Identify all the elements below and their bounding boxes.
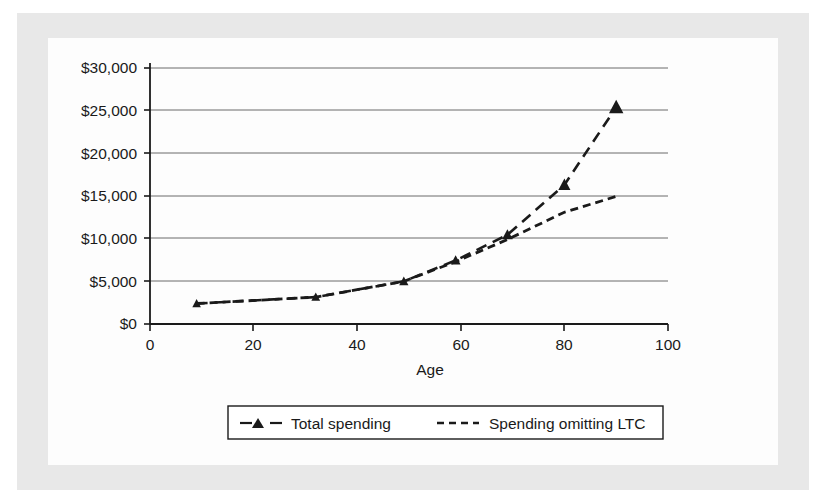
chart-figure: $30,000 $25,000 $20,000 $15,000 $10,000 … [0,0,826,503]
gridlines [150,68,668,281]
x-tick-marks [150,324,668,331]
legend-label-spending-omitting-ltc: Spending omitting LTC [489,415,646,432]
data-series-layer [192,100,623,307]
series-line-2 [197,196,617,303]
series-1 [192,100,623,307]
data-point-marker [609,100,623,114]
y-axis-tick-labels: $30,000 $25,000 $20,000 $15,000 $10,000 … [81,59,137,332]
x-axis-tick-labels: 0 20 40 60 80 100 [146,336,682,353]
x-tick-label-60: 60 [452,336,470,353]
y-tick-label-25000: $25,000 [81,102,137,119]
x-tick-label-0: 0 [146,336,155,353]
x-tick-label-80: 80 [555,336,573,353]
chart-plot: $30,000 $25,000 $20,000 $15,000 $10,000 … [0,0,826,503]
series-2 [197,196,617,303]
x-tick-label-100: 100 [655,336,681,353]
legend-label-total-spending: Total spending [291,415,391,432]
y-tick-label-5000: $5,000 [90,273,138,290]
chart-legend: Total spending Spending omitting LTC [228,406,663,439]
y-tick-label-0: $0 [120,315,138,332]
x-axis-title: Age [416,361,444,378]
y-tick-label-30000: $30,000 [81,59,137,76]
y-tick-label-15000: $15,000 [81,187,137,204]
x-tick-label-40: 40 [348,336,366,353]
series-line-1 [197,107,617,303]
y-tick-label-20000: $20,000 [81,145,137,162]
x-tick-label-20: 20 [244,336,262,353]
y-tick-label-10000: $10,000 [81,230,137,247]
